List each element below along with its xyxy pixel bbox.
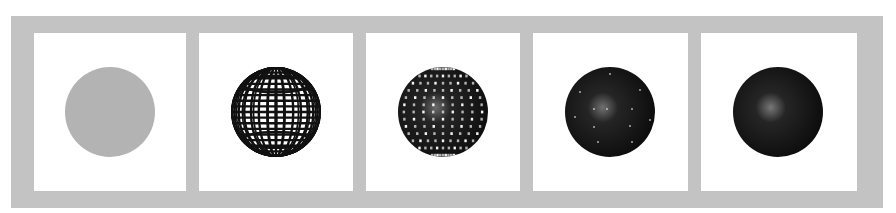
- panel-fully-shaded: [701, 33, 857, 191]
- figure: [0, 0, 896, 213]
- panel-wireframe-sphere: [199, 33, 353, 191]
- panel-flat-disc: [34, 33, 186, 191]
- wireframe-sphere: [199, 33, 353, 191]
- shaded-solid-sphere: [701, 33, 857, 191]
- panel-shaded-sparse-gaps: [533, 33, 688, 191]
- shaded-gaps-sphere: [366, 33, 520, 191]
- flat-disc-sphere: [34, 33, 186, 191]
- panel-shaded-with-gaps: [366, 33, 520, 191]
- shaded-sparse-sphere: [533, 33, 688, 191]
